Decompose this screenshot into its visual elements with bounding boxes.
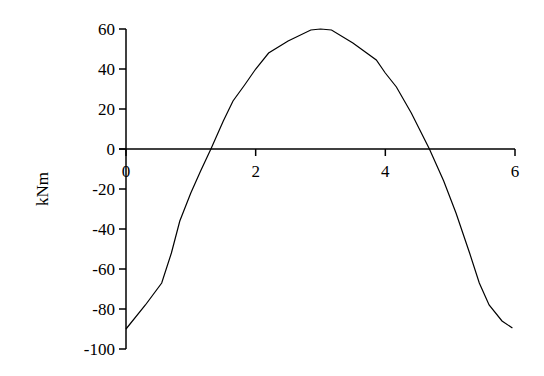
x-tick-marks: [126, 149, 515, 156]
y-tick-label: 40: [98, 60, 115, 79]
bending-moment-line: [126, 29, 512, 329]
chart: 6040200-20-40-60-80-100 0246 kNm: [0, 0, 544, 376]
y-tick-label: -20: [92, 180, 115, 199]
x-tick-label: 0: [122, 162, 131, 181]
y-axis-title: kNm: [33, 172, 52, 206]
y-tick-label: -60: [92, 260, 115, 279]
x-tick-label: 4: [381, 162, 390, 181]
x-tick-label: 2: [251, 162, 260, 181]
y-tick-label: 0: [107, 140, 116, 159]
y-axis: 6040200-20-40-60-80-100: [84, 20, 126, 359]
y-tick-label: -40: [92, 220, 115, 239]
y-tick-label: 60: [98, 20, 115, 39]
y-tick-label: 20: [98, 100, 115, 119]
y-tick-label: -80: [92, 300, 115, 319]
x-axis: 0246: [119, 149, 519, 181]
y-tick-marks: [119, 29, 126, 349]
y-tick-labels: 6040200-20-40-60-80-100: [84, 20, 115, 359]
x-tick-labels: 0246: [122, 162, 520, 181]
y-tick-label: -100: [84, 340, 115, 359]
x-tick-label: 6: [511, 162, 520, 181]
